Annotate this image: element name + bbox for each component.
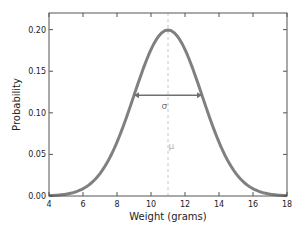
x-tick-label: 12 [180,200,190,209]
x-axis-ticks: 4681012141618 [46,13,292,209]
x-tick-label: 8 [114,200,119,209]
x-axis-label: Weight (grams) [129,211,206,222]
y-axis-label: Probability [11,78,22,131]
y-axis-ticks: 0.000.050.100.150.20 [28,26,287,201]
x-tick-label: 6 [80,200,85,209]
sigma-label: σ [162,101,168,111]
x-tick-label: 10 [146,200,156,209]
x-tick-label: 14 [214,200,224,209]
normal-distribution-chart: σ μ 4681012141618 0.000.050.100.150.20 W… [0,0,304,235]
y-tick-label: 0.00 [28,192,46,201]
x-tick-label: 16 [248,200,258,209]
y-tick-label: 0.05 [28,150,46,159]
y-tick-label: 0.20 [28,26,46,35]
x-tick-label: 18 [282,200,292,209]
y-tick-label: 0.10 [28,109,46,118]
y-tick-label: 0.15 [28,67,46,76]
mu-label: μ [169,141,175,151]
x-tick-label: 4 [46,200,51,209]
